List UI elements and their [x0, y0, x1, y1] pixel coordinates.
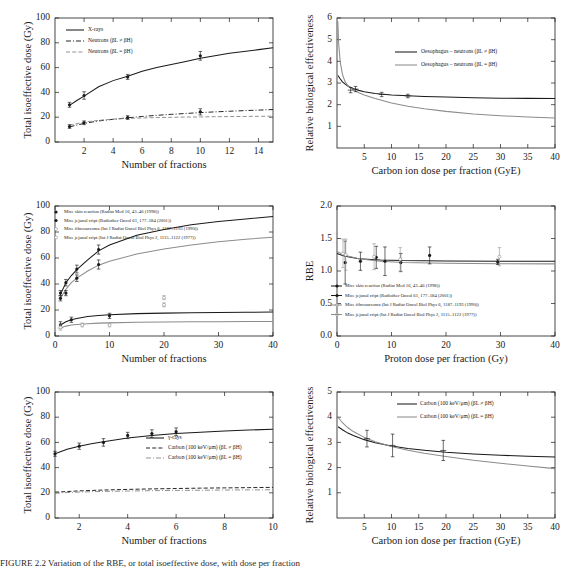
- legend-label: Mice jejunal cript (Int J Radiat Oncol B…: [345, 312, 477, 318]
- x-tick-label: 30: [214, 340, 224, 350]
- plot-frame: [337, 392, 555, 518]
- y-tick-label: 0.0: [320, 330, 332, 340]
- legend-label: Mice fibrosarcoma (Int J Radiat Oncol Bi…: [64, 226, 198, 232]
- x-tick-label: 14: [254, 146, 264, 156]
- x-tick-label: 6: [174, 522, 179, 532]
- chart-mid-right: 0102030400.00.51.01.52.0Proton dose per …: [285, 190, 570, 380]
- y-tick-label: 60: [41, 252, 51, 262]
- x-tick-label: 30: [496, 152, 506, 162]
- y-axis-title: Total isoeffective dose (Gy): [22, 21, 34, 139]
- x-tick-label: 30: [496, 522, 506, 532]
- y-tick-label: 80: [41, 411, 51, 421]
- legend-marker: [55, 228, 58, 231]
- data-series-curve: [338, 427, 555, 457]
- y-tick-label: 20: [41, 111, 51, 121]
- y-tick-label: 100: [36, 200, 51, 210]
- x-tick-label: 20: [441, 340, 451, 350]
- y-axis-title: Total isoeffective dose (Gy): [22, 396, 34, 514]
- x-tick-label: 25: [469, 522, 479, 532]
- data-point: [383, 260, 386, 263]
- data-point: [59, 292, 62, 295]
- y-tick-label: 4: [327, 56, 332, 66]
- data-point: [359, 260, 362, 263]
- legend-label: Mice jejunal cript (Radiother Oncol 61, …: [345, 293, 452, 299]
- y-tick-label: 5: [327, 34, 332, 44]
- y-tick-label: 100: [36, 386, 51, 396]
- chart-top-right: 510152025303540123456Carbon ion dose per…: [285, 0, 570, 190]
- legend-label: Carbon (100 keV/μm) (βL ≠ βH): [168, 444, 242, 451]
- figure-caption: FIGURE 2.2 Variation of the RBE, or tota…: [0, 558, 570, 569]
- panel-bottom-left: 246810020406080100Number of fractionsTot…: [0, 380, 290, 560]
- legend-marker: [54, 219, 57, 222]
- x-tick-label: 6: [140, 146, 145, 156]
- data-point: [108, 323, 111, 326]
- y-axis-title: RBE: [304, 261, 315, 281]
- panel-mid-right: 0102030400.00.51.01.52.0Proton dose per …: [285, 190, 570, 380]
- x-tick-label: 35: [523, 522, 533, 532]
- legend-label: Mice jejunal cript (Int J Radiat Oncol B…: [64, 235, 196, 241]
- data-point: [53, 452, 56, 455]
- y-tick-label: 2: [327, 462, 332, 472]
- y-tick-label: 80: [41, 226, 51, 236]
- data-point: [64, 281, 67, 284]
- data-point: [496, 260, 499, 263]
- legend-marker: [54, 210, 57, 213]
- data-point: [82, 94, 85, 97]
- legend-label: γ-rays: [167, 434, 182, 440]
- x-axis-title: Number of fractions: [121, 353, 206, 364]
- plot-frame: [337, 18, 555, 148]
- x-axis-title: Proton dose per fraction (Gy): [384, 353, 508, 365]
- x-tick-label: 4: [125, 522, 130, 532]
- data-point: [68, 103, 71, 106]
- x-axis-title: Number of fractions: [121, 159, 206, 170]
- panel-top-left: 2468101214020406080100Number of fraction…: [0, 0, 290, 190]
- x-tick-label: 4: [111, 146, 116, 156]
- x-tick-label: 10: [387, 522, 397, 532]
- x-tick-label: 5: [362, 522, 367, 532]
- data-series-curve: [70, 110, 273, 127]
- y-tick-label: 5: [327, 386, 332, 396]
- x-tick-label: 40: [550, 152, 560, 162]
- legend-marker: [55, 236, 58, 239]
- legend-label: Mice skin reaction (Radiat Med 16, 43–46…: [345, 283, 440, 289]
- chart-mid-left: 010203040020406080100Number of fractions…: [0, 190, 290, 380]
- data-point: [108, 314, 111, 317]
- x-tick-label: 10: [196, 146, 206, 156]
- data-point: [126, 75, 129, 78]
- legend-label: Carbon (100 keV/μm) (βL ≠ βH): [420, 400, 494, 407]
- x-tick-label: 5: [362, 152, 367, 162]
- panel-mid-left: 010203040020406080100Number of fractions…: [0, 190, 290, 380]
- y-tick-label: 100: [36, 12, 51, 22]
- data-point: [399, 258, 402, 261]
- y-axis-title: Total isoeffective dose (Gy): [22, 212, 34, 330]
- x-tick-label: 40: [550, 340, 560, 350]
- data-point: [126, 434, 129, 437]
- y-tick-label: 40: [41, 462, 51, 472]
- x-axis-title: Carbon ion dose per fraction (GyE): [372, 165, 521, 177]
- data-point: [75, 277, 78, 280]
- chart-bottom-left: 246810020406080100Number of fractionsTot…: [0, 380, 290, 560]
- y-tick-label: 1: [327, 487, 332, 497]
- x-tick-label: 8: [169, 146, 174, 156]
- y-tick-label: 60: [41, 62, 51, 72]
- x-tick-label: 40: [268, 340, 278, 350]
- data-series-curve: [60, 321, 273, 328]
- figure-container: 2468101214020406080100Number of fraction…: [0, 0, 570, 569]
- y-axis-title: Relative biological effectiveness: [304, 387, 315, 524]
- data-point: [373, 255, 376, 258]
- x-tick-label: 12: [225, 146, 235, 156]
- y-tick-label: 1.0: [320, 265, 332, 275]
- panel-top-right: 510152025303540123456Carbon ion dose per…: [285, 0, 570, 190]
- data-point: [199, 110, 202, 113]
- x-tick-label: 10: [268, 522, 278, 532]
- y-axis-title: Relative biological effectiveness: [304, 15, 315, 152]
- data-point: [102, 441, 105, 444]
- data-series-curve: [70, 48, 273, 106]
- y-tick-label: 2: [327, 99, 332, 109]
- x-tick-label: 8: [222, 522, 227, 532]
- y-tick-label: 0.5: [320, 298, 332, 308]
- y-tick-label: 0: [45, 330, 50, 340]
- data-point: [81, 323, 84, 326]
- data-point: [163, 296, 166, 299]
- y-tick-label: 2.0: [320, 200, 332, 210]
